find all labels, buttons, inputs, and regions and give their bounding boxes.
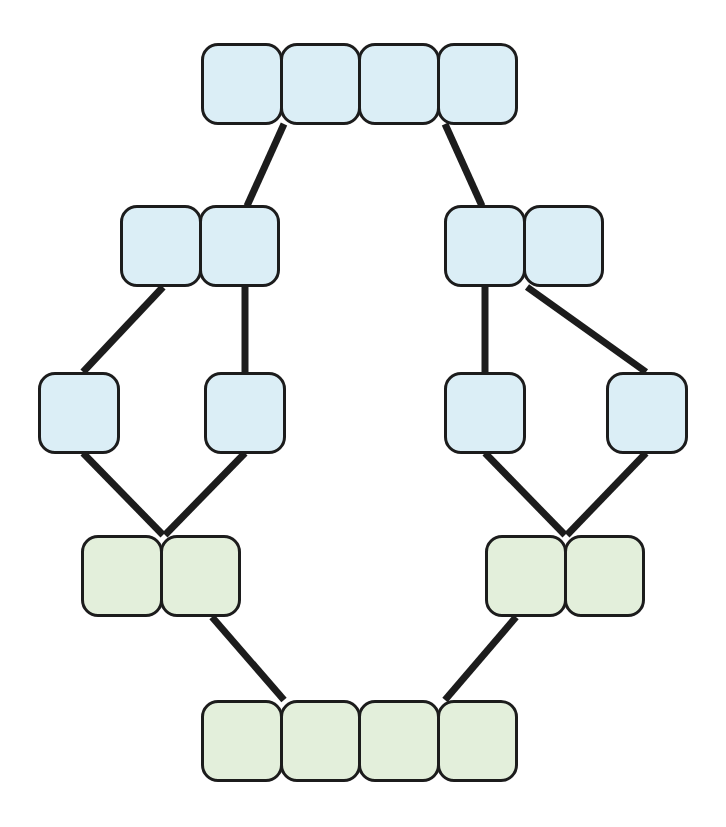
node-cell — [38, 372, 120, 454]
lattice-node-l3-d[interactable] — [606, 372, 688, 454]
node-cell — [201, 700, 283, 782]
node-cell — [485, 535, 567, 617]
node-cell — [358, 43, 440, 125]
node-cell — [280, 700, 362, 782]
node-cell — [444, 372, 526, 454]
node-cell — [437, 700, 519, 782]
lattice-node-l4-left[interactable] — [81, 535, 244, 617]
node-cell — [358, 700, 440, 782]
lattice-node-bottom[interactable] — [201, 700, 527, 782]
lattice-node-top[interactable] — [201, 43, 527, 125]
lattice-node-l3-c[interactable] — [444, 372, 526, 454]
node-cell — [120, 205, 202, 287]
node-cell — [444, 205, 526, 287]
node-cell — [199, 205, 281, 287]
node-cell — [437, 43, 519, 125]
node-cell — [523, 205, 605, 287]
lattice-node-l4-right[interactable] — [485, 535, 648, 617]
node-layer — [0, 0, 726, 827]
node-cell — [564, 535, 646, 617]
lattice-node-l2-right[interactable] — [444, 205, 607, 287]
node-cell — [81, 535, 163, 617]
lattice-node-l3-b[interactable] — [204, 372, 286, 454]
node-cell — [204, 372, 286, 454]
diagram-canvas — [0, 0, 726, 827]
node-cell — [160, 535, 242, 617]
node-cell — [280, 43, 362, 125]
lattice-node-l2-left[interactable] — [120, 205, 283, 287]
lattice-node-l3-a[interactable] — [38, 372, 120, 454]
node-cell — [606, 372, 688, 454]
node-cell — [201, 43, 283, 125]
